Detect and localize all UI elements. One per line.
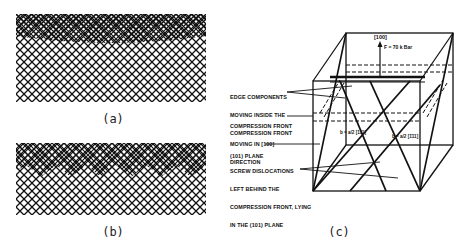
caption-c: (c) xyxy=(319,225,359,239)
annotation-screw-dislocations: SCREW DISLOCATIONS LEFT BEHIND THE COMPR… xyxy=(230,156,311,234)
